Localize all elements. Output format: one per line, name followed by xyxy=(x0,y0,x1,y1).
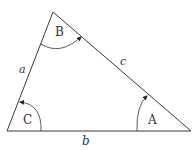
side-a-label: a xyxy=(19,63,26,76)
angle-a-label: A xyxy=(147,113,157,127)
angle-a-arc-icon xyxy=(137,96,147,131)
side-c-label: c xyxy=(120,55,126,68)
angle-b-label: B xyxy=(55,25,64,39)
triangle-diagram: B C A a c b xyxy=(0,0,196,150)
side-b-label: b xyxy=(82,134,90,148)
side-c-line xyxy=(53,12,191,131)
angle-c-label: C xyxy=(23,113,32,127)
